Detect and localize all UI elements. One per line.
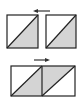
top-right-square — [46, 15, 76, 48]
bottom-arrow-right-icon — [34, 58, 50, 62]
bottom-right-square — [42, 66, 75, 96]
diagram-canvas — [0, 0, 77, 99]
top-left-square — [7, 15, 38, 48]
top-arrow-left-icon — [33, 9, 50, 13]
bottom-left-square — [11, 66, 42, 96]
